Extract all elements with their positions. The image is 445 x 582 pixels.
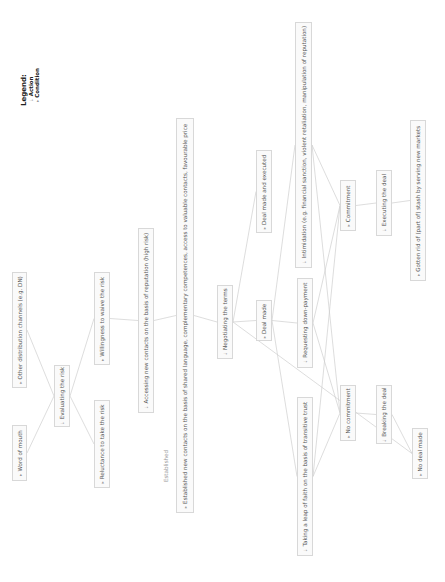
legend-item-condition: ▸Condition (34, 68, 40, 106)
diagram-canvas: Legend: ⇣Action ▸Condition Established ▸… (0, 0, 445, 582)
action-marker-icon: ⇣ (60, 421, 65, 425)
node-label: Deal made (261, 303, 267, 333)
node-deal-executed: ▸Deal made and executed (256, 150, 272, 233)
edge-executing-to-stash (392, 201, 410, 204)
node-label: Reluctance to take the risk (99, 404, 105, 479)
edge-breaking-to-no_deal (392, 415, 412, 454)
action-marker-icon: ⇣ (303, 360, 308, 364)
condition-marker-icon: ▸ (346, 435, 351, 437)
node-word-of-mouth: ▸Word of mouth (12, 425, 27, 481)
edge-down_payment-to-no_commitment (313, 323, 340, 413)
condition-marker-icon: ▸ (416, 273, 421, 275)
node-established-contacts: ▸Established new contacts on the basis o… (176, 118, 194, 513)
legend-title: Legend: (20, 68, 28, 106)
edge-deal_made-to-down_payment (272, 321, 297, 324)
edge-deal_made-to-leap_of_faith (272, 321, 297, 477)
edge-established_contacts-to-negotiating (194, 316, 217, 323)
node-intimidation: ⇣Intimidation (e.g. financial sanction, … (295, 22, 312, 268)
node-label: Breaking the deal (381, 387, 387, 436)
action-marker-icon: ⇣ (301, 260, 306, 264)
edge-down_payment-to-commitment (313, 206, 340, 324)
node-label: No deal made (417, 432, 423, 471)
node-label: Evaluating the risk (59, 367, 65, 419)
condition-marker-icon: ▸ (17, 474, 22, 476)
edge-word_of_mouth-to-evaluating_risk (27, 396, 54, 453)
node-label: Gotten rid of (part of) stash by serving… (415, 125, 421, 271)
node-no-commitment: ▸No commitment (340, 385, 356, 441)
condition-marker-icon: ▸ (262, 336, 267, 338)
edge-other_channels-to-evaluating_risk (27, 330, 54, 396)
action-marker-icon: ⇣ (382, 228, 387, 232)
node-evaluating-risk: ⇣Evaluating the risk (54, 365, 70, 427)
edge-willingness-to-accessing_contacts (110, 319, 138, 321)
node-no-deal: ▸No deal made (412, 428, 428, 479)
node-label: Willingness to waive the risk (99, 276, 105, 356)
node-label: Established new contacts on the basis of… (182, 123, 188, 503)
node-label: Deal made and executed (261, 154, 267, 224)
condition-marker-icon: ▸ (100, 358, 105, 360)
node-label: No commitment (345, 388, 351, 433)
condition-marker-icon: ▸ (35, 100, 40, 102)
node-down-payment: ⇣Requesting down-payment (297, 278, 313, 368)
node-label: Accessing new contacts on the basis of r… (143, 232, 149, 403)
condition-marker-icon: ▸ (183, 505, 188, 507)
node-breaking: ⇣Breaking the deal (376, 385, 392, 444)
action-marker-icon: ⇣ (223, 352, 228, 356)
condition-marker-icon: ▸ (262, 226, 267, 228)
node-label: Requesting down-payment (302, 283, 308, 358)
node-other-channels: ▸Other distribution channels (e.g. DN) (12, 272, 27, 388)
established-label: Established (163, 450, 169, 482)
node-executing: ⇣Executing the deal (376, 170, 392, 236)
edge-intimidation-to-no_commitment (312, 145, 340, 413)
action-marker-icon: ⇣ (382, 438, 387, 442)
edge-evaluating_risk-to-willingness (70, 319, 94, 397)
node-label: Intimidation (e.g. financial sanction, v… (301, 26, 307, 258)
node-leap-of-faith: ⇣Taking a leap of faith on the basis of … (297, 397, 313, 556)
edge-negotiating-to-deal_made (233, 321, 256, 323)
edge-intimidation-to-commitment (312, 145, 340, 206)
edge-negotiating-to-deal_executed (233, 192, 256, 323)
edge-commitment-to-executing (356, 203, 376, 206)
edge-deal_made-to-intimidation (272, 145, 295, 321)
condition-marker-icon: ▸ (346, 224, 351, 226)
condition-marker-icon: ▸ (17, 382, 22, 384)
node-label: Negotiating the terms (222, 288, 228, 350)
node-label: Commitment (345, 185, 351, 222)
node-negotiating: ⇣Negotiating the terms (217, 285, 233, 359)
node-accessing-contacts: ⇣Accessing new contacts on the basis of … (138, 228, 154, 413)
edge-leap_of_faith-to-no_commitment (313, 413, 340, 477)
node-reluctance: ▸Reluctance to take the risk (94, 400, 110, 488)
edge-accessing_contacts-to-established_contacts (154, 316, 176, 321)
node-label: Word of mouth (17, 430, 23, 471)
condition-marker-icon: ▸ (418, 473, 423, 475)
node-stash: ▸Gotten rid of (part of) stash by servin… (410, 120, 426, 281)
legend: Legend: ⇣Action ▸Condition (12, 60, 48, 114)
node-willingness: ▸Willingness to waive the risk (94, 272, 110, 365)
node-commitment: ▸Commitment (340, 180, 356, 231)
edge-leap_of_faith-to-commitment (313, 206, 340, 477)
node-label: Executing the deal (381, 174, 387, 226)
node-label: Taking a leap of faith on the basis of t… (302, 401, 308, 546)
node-deal-made: ▸Deal made (256, 300, 272, 341)
node-label: Other distribution channels (e.g. DN) (17, 276, 23, 379)
action-marker-icon: ⇣ (303, 548, 308, 552)
condition-marker-icon: ▸ (100, 481, 105, 483)
action-marker-icon: ⇣ (144, 405, 149, 409)
edge-evaluating_risk-to-reluctance (70, 396, 94, 444)
